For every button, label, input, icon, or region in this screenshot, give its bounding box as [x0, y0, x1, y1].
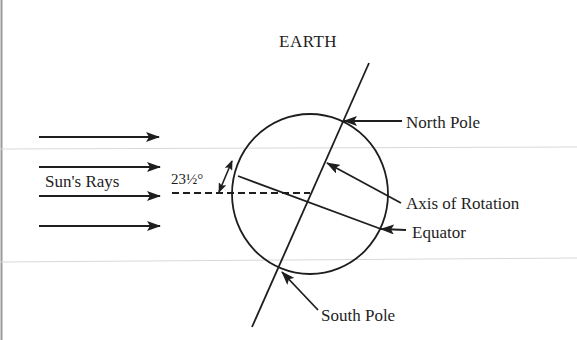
south-pole-pointer-arrow [282, 272, 318, 310]
equator-line [238, 176, 381, 229]
equator-pointer-arrow [381, 229, 406, 230]
sun-rays-label: Sun's Rays [45, 172, 119, 191]
south-pole-label: South Pole [321, 306, 395, 325]
earth-tilt-diagram: EARTH Sun's Rays 23½° North Pole Axis of… [0, 0, 577, 340]
faint-scan-line [0, 147, 577, 149]
rotation-axis-line [252, 63, 369, 327]
tilt-angle-double-arrow [219, 161, 232, 192]
faint-scan-line [0, 258, 577, 262]
axis-of-rotation-pointer-arrow [327, 163, 401, 203]
axis-of-rotation-label: Axis of Rotation [406, 194, 520, 213]
north-pole-label: North Pole [406, 113, 480, 132]
diagram-title: EARTH [279, 32, 337, 51]
tilt-angle-label: 23½° [171, 171, 203, 187]
equator-label: Equator [412, 223, 466, 242]
